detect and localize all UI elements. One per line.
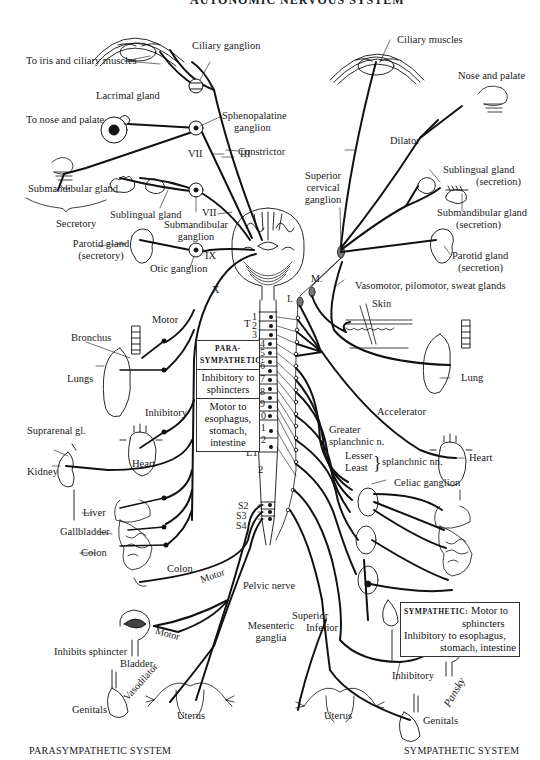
label-submandibular-ganglion-line2: ganglion [178,231,215,242]
kidney-icon-right [383,600,398,660]
label-lesser: Lesser [345,450,372,462]
label-iii: III [240,148,251,160]
label-mesenteric-line1: Mesenteric [248,620,295,631]
label-parotid-line1: Parotid gland [73,238,129,249]
label-colon-inner: Colon [167,563,193,575]
label-sup-cerv-line3: ganglion [305,194,342,205]
label-nose-palate-left: To nose and palate [26,114,104,126]
label-ix: IX [205,250,216,262]
label-heart-right: Heart [469,452,492,464]
sympathetic-box-line3: Inhibitory to esophagus, [404,630,516,642]
parasympathetic-info-box: PARA- SYMPATHETIC: Inhibitory to sphinct… [196,340,260,452]
label-secretory: Secretory [56,218,96,230]
label-ciliary-ganglion: Ciliary ganglion [192,40,261,52]
label-l-ganglion: I. [287,293,293,305]
label-t8: 8 [260,386,265,398]
label-ciliary-muscles: Ciliary muscles [397,34,463,46]
parasympathetic-box-header: PARA- SYMPATHETIC: [197,341,259,369]
secretory-bracket [26,198,106,212]
label-sphenopalatine-ganglion: ganglion [234,122,271,134]
label-skin: Skin [372,298,391,310]
label-m-ganglion: M. [311,273,322,285]
box-item2-line2: esophagus, [205,413,251,424]
box-head-line2: SYMPATHETIC: [200,356,264,365]
label-kidney: Kidney [27,466,58,478]
label-iris-ciliary: To iris and ciliary muscles [26,55,137,67]
brain-icon [232,208,304,300]
label-lungs: Lungs [67,373,93,385]
label-superior-mesenteric: Superior [292,610,328,622]
label-parotid-gland-left: Parotid gland (secretory) [66,238,136,262]
label-lacrimal-gland: Lacrimal gland [96,90,160,102]
label-mesenteric-line2: ganglia [256,632,287,643]
label-vasomotor: Vasomotor, pilomotor, sweat glands [355,280,506,292]
label-l2: 2 [258,464,263,476]
label-sup-cerv-line1: Superior [305,170,341,181]
label-t: T [244,318,250,330]
sympathetic-box-line1: Motor to [471,605,508,616]
label-sup-cerv-line2: cervical [306,182,339,193]
label-parotid-gland-right: Parotid gland [452,250,508,262]
label-greater-line2: splanchnic n. [329,436,384,447]
label-gallbladder: Gallbladder [60,526,110,538]
label-t7: 7 [260,373,265,385]
label-submandibular-gland-left: Submandibular gland [28,183,118,195]
page-title-cropped: AUTONOMIC NERVOUS SYSTEM [190,0,404,8]
label-submandibular-ganglion: Submandibular ganglion [160,219,232,243]
label-x: X [212,284,220,296]
label-least: Least [345,462,368,474]
parasympathetic-box-sphincters: Inhibitory to sphincters [197,369,259,398]
label-uterus-right: Uterus [324,710,352,722]
label-inhibitory-heart: Inhibitory [145,407,187,419]
label-sublingual-gland-right: Sublingual gland [443,164,514,176]
box-item2-line1: Motor to [209,401,246,412]
sympathetic-box-line2: sphincters [404,618,516,630]
box-item2-line4: intestine [210,437,246,448]
label-submandibular-ganglion-line1: Submandibular [164,219,228,230]
label-mesenteric-ganglia: Mesenteric ganglia [246,620,296,644]
lacrimal-gland-icon [101,115,130,143]
label-suprarenal: Suprarenal gl. [27,425,86,437]
label-inhibitory-right: Inhibitory [392,670,434,682]
label-superior-cervical-ganglion: Superior cervical ganglion [298,170,348,206]
label-greater-splanchnic: Greater splanchnic n. [329,424,384,448]
eye-right-icon [330,54,424,84]
label-vii-upper: VII [188,148,203,160]
label-parotid-line2: (secretory) [78,250,123,261]
label-lung-right: Lung [461,372,483,384]
sympathetic-box-header: SYMPATHETIC: [404,607,468,616]
sympathetic-box-line4: stomach, intestine [404,642,516,654]
label-uterus-left: Uterus [177,710,205,722]
sympathetic-info-box: SYMPATHETIC: Motor to sphincters Inhibit… [400,602,520,657]
label-otic-ganglion: Otic ganglion [150,263,207,275]
label-submandibular-gland-right: Submandibular gland [437,207,527,219]
pelvic-nerve [140,505,262,702]
box-item2-line3: stomach, [209,425,247,436]
label-pelvic-nerve: Pelvic nerve [243,580,295,592]
label-bronchus: Bronchus [71,332,111,344]
brace-splanchnic: } [373,454,382,472]
label-dilator: Dilator [390,135,420,147]
skin-icon [346,304,412,348]
label-nose-palate-right: Nose and palate [458,70,525,82]
box-item1-line1: Inhibitory to [202,372,255,383]
parasympathetic-box-motor: Motor to esophagus, stomach, intestine [197,398,259,451]
digestive-organs-right [435,490,472,576]
label-celiac-ganglion: Celiac ganglion [394,477,460,489]
label-colon-left: Colon [81,547,107,559]
label-sublingual-secretion: (secretion) [476,176,521,188]
label-vii-lower: VII [202,207,217,219]
spinal-nuclei [268,315,273,521]
label-sphenopalatine: Sphenopalatine [222,110,287,122]
nose-palate-icon-right [478,86,507,112]
label-inferior-mesenteric: Inferior [306,622,338,634]
label-liver: Liver [83,507,106,519]
label-parotid-secretion: (secretion) [458,262,503,274]
caption-parasympathetic: PARASYMPATHETIC SYSTEM [29,745,171,757]
digestive-organs-left [115,500,152,586]
caption-sympathetic: SYMPATHETIC SYSTEM [404,745,519,757]
label-t9: 9 [260,398,265,410]
label-submandibular-secretion: (secretion) [456,219,501,231]
label-splanchnic-nn: splanchnic nn. [382,456,443,468]
box-item1-line2: sphincters [207,384,250,395]
